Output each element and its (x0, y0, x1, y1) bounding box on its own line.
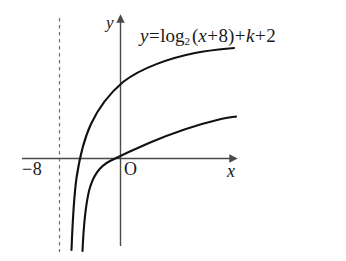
equation-annotation: y=log2(x+8)+k+2 (140, 26, 276, 47)
equation-plus-second: + (234, 25, 246, 46)
y-axis-label: y (106, 14, 114, 31)
equation-argument-constant: 8 (218, 25, 228, 46)
math-figure: y x O −8 y=log2(x+8)+k+2 (0, 0, 346, 261)
lower-curve (83, 117, 237, 251)
equation-log-function: log (160, 25, 184, 46)
equation-constant-two: 2 (266, 25, 276, 46)
equation-plus-third: + (254, 25, 266, 46)
equation-argument-variable: x (198, 25, 206, 46)
x-axis-label: x (227, 162, 235, 180)
origin-label: O (124, 160, 137, 178)
upper-curve (72, 48, 235, 250)
x-tick-label-negative-eight: −8 (22, 160, 42, 178)
equation-equals: = (148, 25, 160, 46)
equation-plus-first: + (207, 25, 219, 46)
